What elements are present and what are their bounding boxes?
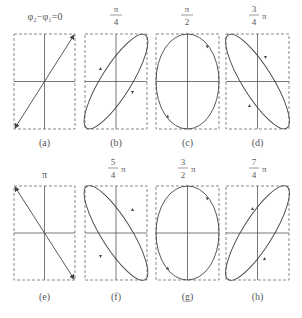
panel-label: (b) xyxy=(110,137,122,149)
panel-a: φ₂−φ₁=0 (a) xyxy=(14,11,75,149)
panel-label: (d) xyxy=(252,137,264,149)
trajectory-line xyxy=(45,35,75,82)
phase-denominator: 4 xyxy=(111,170,116,180)
phase-pi: π xyxy=(262,164,267,174)
phase-numerator: 5 xyxy=(111,157,116,167)
panel-label: (e) xyxy=(39,291,50,303)
panel-label: (a) xyxy=(39,137,50,149)
phase-label: φ₂−φ₁=0 xyxy=(28,11,63,22)
phase-denominator: 4 xyxy=(252,170,257,180)
phase-pi: π xyxy=(191,164,196,174)
panel-label: (h) xyxy=(252,291,264,303)
phase-numerator: 7 xyxy=(252,157,257,167)
panel-f: 5 4 π (f) xyxy=(74,157,158,303)
phase-denominator: 4 xyxy=(114,17,119,27)
trajectory-line xyxy=(45,233,75,279)
phase-numerator: π xyxy=(185,4,190,14)
trajectory-line xyxy=(15,82,45,129)
direction-arrow-icon xyxy=(251,207,254,210)
direction-arrow-icon xyxy=(131,91,134,94)
panel-e: π (e) xyxy=(14,169,75,303)
panel-label: (c) xyxy=(182,137,193,149)
phase-numerator: π xyxy=(114,4,119,14)
phase-pi: π xyxy=(262,11,267,21)
direction-arrow-icon xyxy=(99,255,102,258)
direction-arrow-icon xyxy=(263,257,266,260)
direction-arrow-icon xyxy=(264,56,267,59)
panel-label: (g) xyxy=(182,291,194,303)
trajectory-line xyxy=(15,187,45,233)
direction-arrow-icon xyxy=(248,104,251,107)
direction-arrow-icon xyxy=(131,208,134,211)
panel-b: π 4 (b) xyxy=(74,4,158,149)
panel-label: (f) xyxy=(111,291,121,303)
phase-label: π xyxy=(42,169,47,180)
phase-denominator: 2 xyxy=(181,170,186,180)
lissajous-figure: φ₂−φ₁=0 (a) π 4 (b) π 2 (c) 3 4 xyxy=(0,0,302,318)
phase-denominator: 4 xyxy=(252,17,257,27)
direction-arrow-icon xyxy=(99,67,102,70)
phase-numerator: 3 xyxy=(252,4,257,14)
panel-h: 7 4 π (h) xyxy=(216,157,300,303)
phase-pi: π xyxy=(121,164,126,174)
phase-denominator: 2 xyxy=(185,17,190,27)
panel-c: π 2 (c) xyxy=(156,4,219,149)
phase-numerator: 3 xyxy=(181,157,186,167)
panel-d: 3 4 π (d) xyxy=(216,4,300,149)
panel-g: 3 2 π (g) xyxy=(156,157,219,303)
